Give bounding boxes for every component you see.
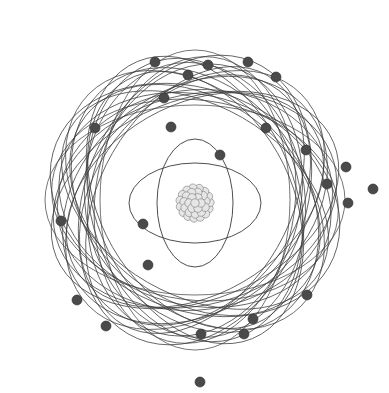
electron: [271, 72, 281, 82]
electron: [138, 219, 148, 229]
electron: [159, 93, 169, 103]
electron: [166, 122, 176, 132]
electron: [239, 329, 249, 339]
electron: [215, 150, 225, 160]
electron: [341, 162, 351, 172]
electron: [195, 377, 205, 387]
electron: [56, 216, 66, 226]
electrons: [56, 57, 378, 387]
electron: [72, 295, 82, 305]
electron: [196, 329, 206, 339]
electron: [101, 321, 111, 331]
electron: [90, 123, 100, 133]
nucleon: [191, 199, 199, 207]
electron: [322, 179, 332, 189]
atom-diagram: [0, 0, 389, 393]
electron: [301, 145, 311, 155]
electron: [261, 123, 271, 133]
electron: [183, 70, 193, 80]
electron: [203, 60, 213, 70]
electron: [248, 314, 258, 324]
electron: [343, 198, 353, 208]
electron: [150, 57, 160, 67]
electron: [143, 260, 153, 270]
electron: [302, 290, 312, 300]
electron: [368, 184, 378, 194]
nucleus: [176, 184, 214, 222]
electron: [243, 57, 253, 67]
